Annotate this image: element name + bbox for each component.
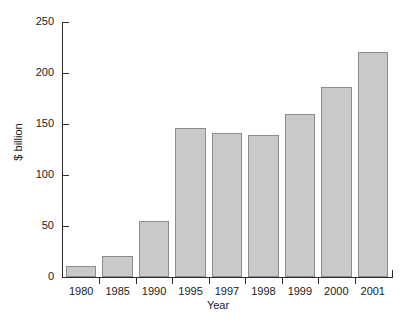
y-axis-tick — [62, 277, 69, 278]
bar — [358, 52, 388, 277]
bar-chart: 050100150200250 198019851990199519971998… — [0, 0, 418, 325]
bar — [175, 128, 205, 277]
y-axis-tick-label-text: 50 — [8, 220, 54, 231]
x-axis-tick — [136, 277, 137, 284]
bars-layer — [63, 22, 392, 277]
y-axis-tick-label: 200 — [0, 67, 54, 78]
y-axis-title: $ billion — [12, 102, 24, 182]
x-axis-tick — [355, 277, 356, 284]
y-axis-tick — [62, 22, 69, 23]
bar — [248, 135, 278, 277]
y-axis-tick-label: 0 — [0, 271, 54, 282]
x-axis-tick — [318, 277, 319, 284]
x-axis-tick — [209, 277, 210, 284]
bar — [66, 266, 96, 277]
y-axis-tick — [62, 124, 69, 125]
x-axis-line — [62, 277, 393, 278]
bar — [212, 133, 242, 277]
y-axis-tick-label: 150 — [0, 118, 54, 129]
bar — [321, 87, 351, 277]
y-axis-tick — [62, 226, 69, 227]
y-axis-tick-label: 250 — [0, 16, 54, 27]
y-axis-line — [62, 22, 63, 278]
x-axis-end-cap — [392, 270, 393, 278]
y-axis-tick-label-text: 200 — [8, 67, 54, 78]
bar — [139, 221, 169, 277]
x-axis-tick — [245, 277, 246, 284]
y-axis-tick-label: 100 — [0, 169, 54, 180]
bar — [285, 114, 315, 277]
y-axis-tick — [62, 73, 69, 74]
y-axis-tick-label-text: 0 — [8, 271, 54, 282]
y-axis-tick-label-text: 250 — [8, 16, 54, 27]
y-axis-tick — [62, 175, 69, 176]
y-axis-tick-label: 50 — [0, 220, 54, 231]
x-axis-tick — [282, 277, 283, 284]
bar — [102, 256, 132, 277]
x-axis-tick — [99, 277, 100, 284]
x-axis-tick — [172, 277, 173, 284]
x-axis-tick-label: 2001 — [349, 285, 397, 298]
x-axis-title: Year — [183, 299, 253, 311]
